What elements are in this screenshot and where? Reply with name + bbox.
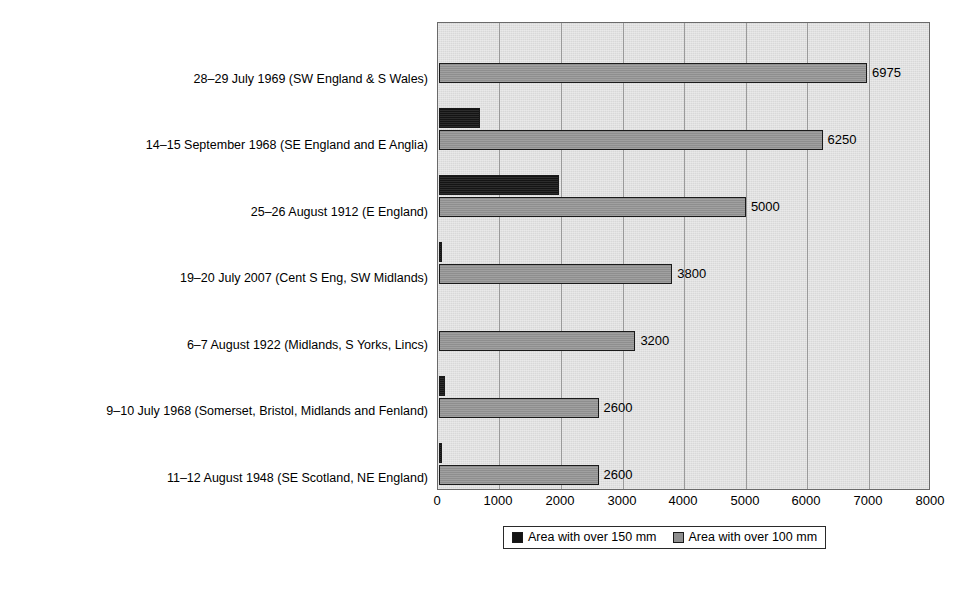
gridline	[869, 23, 870, 489]
black-swatch-icon	[512, 532, 523, 543]
category-label-column: 28–29 July 1969 (SW England & S Wales) 1…	[0, 20, 432, 490]
x-tick-label: 6000	[792, 494, 821, 508]
bar-value-label: 6975	[872, 66, 901, 79]
gridline	[684, 23, 685, 489]
category-label: 9–10 July 1968 (Somerset, Bristol, Midla…	[0, 404, 428, 418]
bar-150mm	[439, 443, 442, 463]
bar-100mm	[439, 130, 823, 150]
bar-value-label: 3200	[640, 334, 669, 347]
bar-150mm	[439, 376, 445, 396]
x-tick-label: 1000	[484, 494, 513, 508]
category-label: 28–29 July 1969 (SW England & S Wales)	[0, 72, 428, 86]
legend-label: Area with over 150 mm	[528, 530, 657, 544]
bar-100mm	[439, 331, 635, 351]
x-tick-label: 4000	[669, 494, 698, 508]
x-tick-label: 2000	[546, 494, 575, 508]
category-label: 25–26 August 1912 (E England)	[0, 205, 428, 219]
bar-chart: 28–29 July 1969 (SW England & S Wales) 1…	[0, 0, 980, 592]
legend-label: Area with over 100 mm	[689, 530, 818, 544]
x-tick-label: 0	[433, 494, 440, 508]
gridline	[499, 23, 500, 489]
bar-150mm	[439, 175, 559, 195]
x-tick-label: 7000	[854, 494, 883, 508]
legend-item-100mm: Area with over 100 mm	[673, 530, 818, 544]
gridline	[807, 23, 808, 489]
x-tick-label: 5000	[731, 494, 760, 508]
gridline	[561, 23, 562, 489]
category-label: 14–15 September 1968 (SE England and E A…	[0, 138, 428, 152]
chart-legend: Area with over 150 mm Area with over 100…	[503, 526, 826, 549]
bar-value-label: 6250	[828, 133, 857, 146]
x-tick-label: 3000	[608, 494, 637, 508]
bar-100mm	[439, 197, 746, 217]
bar-150mm	[439, 242, 442, 262]
bar-100mm	[439, 264, 672, 284]
x-axis: 0 1000 2000 3000 4000 5000 6000 7000 800…	[437, 492, 930, 514]
bar-100mm	[439, 398, 599, 418]
plot-area	[437, 22, 930, 490]
gridline	[623, 23, 624, 489]
bar-value-label: 3800	[677, 267, 706, 280]
category-label: 6–7 August 1922 (Midlands, S Yorks, Linc…	[0, 338, 428, 352]
bar-100mm	[439, 63, 867, 83]
bar-150mm	[439, 108, 480, 128]
category-label: 11–12 August 1948 (SE Scotland, NE Engla…	[0, 471, 428, 485]
bar-value-label: 2600	[604, 401, 633, 414]
bar-value-label: 5000	[751, 200, 780, 213]
gridline	[746, 23, 747, 489]
gray-swatch-icon	[673, 532, 684, 543]
legend-item-150mm: Area with over 150 mm	[512, 530, 657, 544]
bar-100mm	[439, 465, 599, 485]
category-label: 19–20 July 2007 (Cent S Eng, SW Midlands…	[0, 271, 428, 285]
bar-value-label: 2600	[604, 468, 633, 481]
x-tick-label: 8000	[916, 494, 945, 508]
